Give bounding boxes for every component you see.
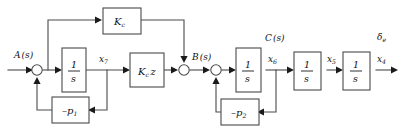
- arrow-output: [391, 66, 398, 73]
- arrow-into-kcz: [123, 66, 130, 73]
- arrow-into-int2: [229, 66, 236, 73]
- arrow-p2-into-sum3: [212, 77, 219, 84]
- arrow-into-sum3: [203, 66, 210, 73]
- block-integrator-1[interactable]: [62, 48, 86, 92]
- signal-label-b-of-s: B(s): [191, 52, 212, 62]
- signal-label-c-of-s: C(s): [265, 33, 285, 43]
- signal-label-delta-e: δe: [377, 32, 386, 43]
- summing-junction-1[interactable]: [32, 65, 42, 75]
- arrow-into-int1: [55, 66, 62, 73]
- block-integrator-1-denominator: s: [71, 73, 76, 84]
- wire-kc-feedforward-down: [141, 20, 184, 58]
- arrow-into-kc: [95, 16, 102, 23]
- wire-x6-to-p2: [262, 70, 276, 112]
- arrow-kc-into-sum2: [180, 56, 187, 63]
- signal-label-x5: x5: [327, 54, 336, 65]
- block-integrator-2-numerator: 1: [245, 59, 251, 70]
- signal-label-x7: x7: [99, 54, 108, 65]
- summing-junction-2[interactable]: [179, 65, 189, 75]
- block-integrator-4-numerator: 1: [353, 59, 359, 70]
- signal-label-a-of-s: A(s): [13, 50, 34, 60]
- block-diagram-svg: Kc 1 s Kcz –p1 1 s –p2 1 s 1 s A(s) x7 B…: [0, 0, 407, 132]
- arrow-p1-into-sum1: [33, 77, 40, 84]
- arrow-into-int4: [336, 66, 343, 73]
- wire-x7-to-p1: [93, 70, 107, 110]
- arrow-into-sum2: [171, 66, 178, 73]
- wire-p1-to-sum1: [37, 82, 52, 110]
- block-integrator-2[interactable]: [236, 48, 261, 92]
- block-integrator-2-denominator: s: [245, 73, 250, 84]
- summing-junction-3[interactable]: [211, 65, 221, 75]
- block-integrator-4-denominator: s: [353, 73, 358, 84]
- signal-label-x4: x4: [377, 54, 386, 65]
- block-integrator-3-numerator: 1: [304, 59, 310, 70]
- block-kc-z[interactable]: [130, 53, 164, 87]
- block-integrator-3-denominator: s: [304, 73, 309, 84]
- block-diagram-canvas: Kc 1 s Kcz –p1 1 s –p2 1 s 1 s A(s) x7 B…: [0, 0, 407, 132]
- block-integrator-1-numerator: 1: [71, 59, 77, 70]
- arrow-into-int3: [287, 66, 294, 73]
- wire-p2-to-sum3: [216, 82, 221, 112]
- signal-label-x6: x6: [268, 54, 277, 65]
